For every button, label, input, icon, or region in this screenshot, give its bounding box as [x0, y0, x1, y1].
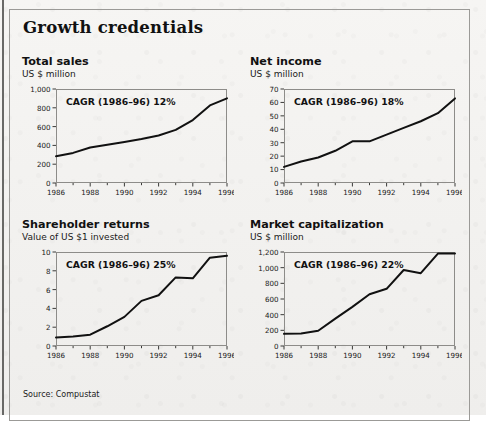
y-tick-label: 200 — [37, 160, 51, 169]
x-tick-label: 1996 — [446, 188, 462, 197]
x-tick-label: 1996 — [218, 188, 234, 197]
x-tick-label: 1986 — [275, 351, 294, 360]
data-line — [56, 256, 227, 338]
data-line — [284, 98, 455, 166]
data-line — [284, 254, 455, 334]
chart-subtitle: US $ million — [250, 232, 462, 243]
y-tick-label: 200 — [265, 326, 279, 335]
y-tick-label: 1,000 — [258, 264, 279, 273]
x-tick-label: 1996 — [446, 351, 462, 360]
x-tick-label: 1996 — [218, 351, 234, 360]
chart-panel-total-sales: Total sales US $ million 02004006008001,… — [22, 56, 234, 206]
source-note: Source: Compustat — [23, 390, 99, 399]
y-tick-label: 1,000 — [30, 85, 51, 94]
y-tick-label: 0 — [46, 179, 51, 188]
chart-title: Shareholder returns — [22, 219, 234, 231]
chart-title: Total sales — [22, 56, 234, 68]
page-title: Growth credentials — [23, 18, 203, 37]
y-tick-label: 30 — [269, 139, 279, 148]
y-tick-label: 0 — [274, 179, 279, 188]
line-chart-svg: 0246810198619881990199219941996 — [22, 246, 234, 364]
y-tick-label: 70 — [269, 85, 279, 94]
y-tick-label: 600 — [265, 295, 279, 304]
page-column-rule — [2, 0, 4, 415]
x-tick-label: 1988 — [309, 351, 328, 360]
y-tick-label: 20 — [269, 152, 279, 161]
y-tick-label: 400 — [265, 311, 279, 320]
y-tick-label: 2 — [46, 323, 51, 332]
chart-panel-net-income: Net income US $ million 0102030405060701… — [250, 56, 462, 206]
plot-frame — [57, 253, 227, 346]
x-tick-label: 1990 — [343, 351, 362, 360]
y-tick-label: 50 — [269, 112, 279, 121]
y-tick-label: 400 — [37, 141, 51, 150]
x-tick-label: 1986 — [47, 188, 66, 197]
plot-area: 010203040506070198619881990199219941996 … — [250, 83, 462, 201]
chart-title: Market capitalization — [250, 219, 462, 231]
x-tick-label: 1992 — [378, 188, 396, 197]
chart-subtitle: US $ million — [250, 69, 462, 80]
x-tick-label: 1990 — [115, 351, 134, 360]
x-tick-label: 1994 — [412, 188, 431, 197]
line-chart-svg: 02004006008001,0001,20019861988199019921… — [250, 246, 462, 364]
y-tick-label: 60 — [269, 98, 279, 107]
x-tick-label: 1992 — [378, 351, 396, 360]
y-tick-label: 0 — [46, 342, 51, 351]
y-tick-label: 800 — [37, 104, 51, 113]
chart-panel-shareholder-returns: Shareholder returns Value of US $1 inves… — [22, 219, 234, 369]
x-tick-label: 1992 — [150, 188, 168, 197]
y-tick-label: 40 — [269, 125, 279, 134]
x-tick-label: 1994 — [412, 351, 431, 360]
x-tick-label: 1986 — [275, 188, 294, 197]
y-tick-label: 600 — [37, 123, 51, 132]
plot-area: 02004006008001,0001,20019861988199019921… — [250, 246, 462, 364]
x-tick-label: 1992 — [150, 351, 168, 360]
line-chart-svg: 010203040506070198619881990199219941996 — [250, 83, 462, 201]
chart-title: Net income — [250, 56, 462, 68]
line-chart-svg: 02004006008001,0001986198819901992199419… — [22, 83, 234, 201]
chart-panel-market-capitalization: Market capitalization US $ million 02004… — [250, 219, 462, 369]
x-tick-label: 1994 — [184, 188, 203, 197]
x-tick-label: 1988 — [309, 188, 328, 197]
y-tick-label: 800 — [265, 279, 279, 288]
x-tick-label: 1988 — [81, 351, 100, 360]
y-tick-label: 1,200 — [258, 248, 279, 257]
x-tick-label: 1986 — [47, 351, 66, 360]
y-tick-label: 10 — [269, 165, 279, 174]
x-tick-label: 1988 — [81, 188, 100, 197]
plot-frame — [285, 90, 455, 183]
plot-frame — [57, 90, 227, 183]
y-tick-label: 0 — [274, 342, 279, 351]
chart-subtitle: US $ million — [22, 69, 234, 80]
plot-area: 0246810198619881990199219941996 CAGR (19… — [22, 246, 234, 364]
chart-subtitle: Value of US $1 invested — [22, 232, 234, 243]
x-tick-label: 1990 — [115, 188, 134, 197]
plot-area: 02004006008001,0001986198819901992199419… — [22, 83, 234, 201]
x-tick-label: 1994 — [184, 351, 203, 360]
y-tick-label: 6 — [46, 286, 51, 295]
y-tick-label: 8 — [46, 267, 51, 276]
y-tick-label: 10 — [41, 248, 51, 257]
data-line — [56, 98, 227, 156]
y-tick-label: 4 — [46, 304, 51, 313]
x-tick-label: 1990 — [343, 188, 362, 197]
